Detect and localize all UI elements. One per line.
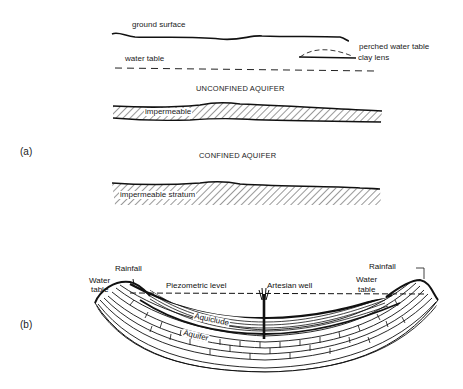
clay-lens-line — [299, 57, 356, 58]
water-table-right-label-2: table — [358, 286, 375, 294]
perched-water-table-curve — [300, 50, 352, 57]
confined-aquifer-title: CONFINED AQUIFER — [199, 152, 276, 160]
ground-surface-label: ground surface — [132, 21, 185, 29]
water-table-label: water table — [125, 55, 164, 63]
unconfined-aquifer-title: UNCONFINED AQUIFER — [196, 85, 285, 93]
perched-water-table-label: perched water table — [359, 43, 429, 51]
ground-surface-line — [112, 33, 349, 41]
impermeable-stratum-label: impermeable stratum — [119, 191, 196, 199]
piezometric-level-line — [130, 293, 425, 294]
artesian-well-label: Artesian well — [267, 282, 312, 290]
rainfall-right-label: Rainfall — [369, 263, 396, 271]
rainfall-left-label: Rainfall — [115, 265, 142, 273]
water-table-line — [115, 68, 375, 71]
piezometric-level-label: Piezometric level — [166, 282, 226, 290]
aquifer-diagram — [0, 0, 463, 389]
water-table-right-label-1: Water — [356, 276, 377, 284]
panel-label-a: (a) — [20, 147, 32, 157]
panel-label-b: (b) — [20, 320, 32, 330]
water-table-left-label-2: table — [91, 286, 108, 294]
impermeable-label: impermeable — [144, 108, 192, 116]
clay-lens-label: clay lens — [358, 54, 389, 62]
